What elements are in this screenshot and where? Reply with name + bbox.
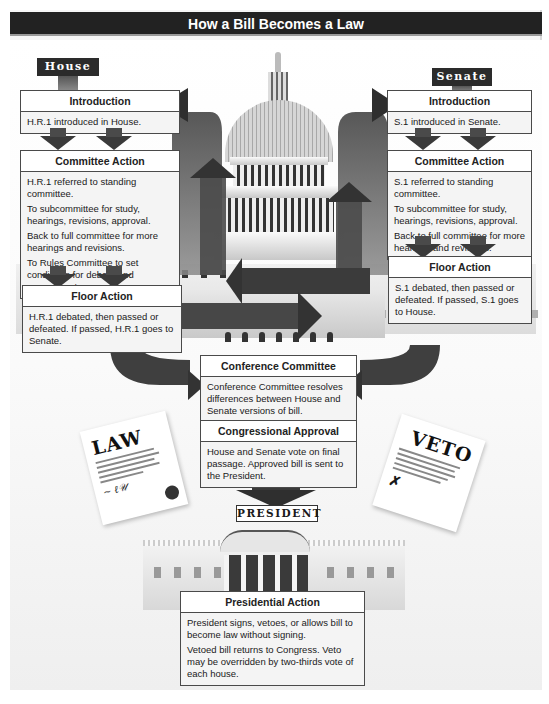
- senate-floor-text: S.1 debated, then passed or defeated. If…: [395, 282, 525, 318]
- senate-introduction-text: S.1 introduced in Senate.: [394, 116, 525, 128]
- senate-committee-heading: Committee Action: [388, 151, 531, 172]
- white-house-windows-left: [154, 567, 221, 578]
- senate-introduction-heading: Introduction: [388, 91, 531, 112]
- house-stem: [58, 76, 78, 90]
- house-introduction-box: Introduction H.R.1 introduced in House.: [20, 90, 180, 134]
- presidential-action-step: President signs, vetoes, or allows bill …: [187, 617, 358, 641]
- presidential-action-heading: Presidential Action: [181, 592, 364, 613]
- house-floor-action-box: Floor Action H.R.1 debated, then passed …: [22, 285, 182, 353]
- white-house-windows-right: [327, 567, 394, 578]
- white-house-portico-top: [220, 530, 310, 552]
- approval-heading: Congressional Approval: [201, 421, 356, 442]
- congressional-approval-box: Congressional Approval House and Senate …: [200, 420, 357, 488]
- house-committee-heading: Committee Action: [21, 151, 179, 172]
- house-introduction-heading: Introduction: [21, 91, 179, 112]
- house-label: House: [37, 58, 99, 76]
- house-to-senate-arrow: [298, 292, 322, 340]
- house-introduction-text: H.R.1 introduced in House.: [27, 116, 173, 128]
- presidential-action-step: Vetoed bill returns to Congress. Veto ma…: [187, 644, 358, 680]
- arrow-down-icon: [460, 136, 496, 150]
- senate-to-conference-arrow: [360, 345, 440, 385]
- approval-text: House and Senate vote on final passage. …: [207, 446, 350, 482]
- senate-floor-action-box: Floor Action S.1 debated, then passed or…: [388, 256, 532, 324]
- senate-committee-step: S.1 referred to standing committee.: [394, 176, 525, 200]
- senate-label: Senate: [432, 68, 492, 86]
- arrow-down-icon: [96, 136, 132, 150]
- seal-icon: [164, 484, 181, 501]
- arrow-down-icon: [40, 136, 76, 150]
- house-committee-step: To subcommittee for study, hearings, rev…: [27, 203, 173, 227]
- house-committee-step: Back to full committee for more hearings…: [27, 230, 173, 254]
- senate-floor-heading: Floor Action: [389, 257, 531, 278]
- white-house-portico-columns: [224, 555, 308, 595]
- conference-text: Conference Committee resolves difference…: [207, 381, 350, 417]
- house-floor-text: H.R.1 debated, then passed or defeated. …: [29, 311, 175, 347]
- conference-heading: Conference Committee: [201, 356, 356, 377]
- house-floor-heading: Floor Action: [23, 286, 181, 307]
- conference-committee-box: Conference Committee Conference Committe…: [200, 355, 357, 423]
- presidential-action-box: Presidential Action President signs, vet…: [180, 591, 365, 686]
- senate-to-house-arrow: [226, 258, 242, 304]
- senate-committee-step: To subcommittee for study, hearings, rev…: [394, 203, 525, 227]
- president-label: President: [236, 505, 318, 522]
- arrow-down-icon: [405, 136, 441, 150]
- house-committee-step: H.R.1 referred to standing committee.: [27, 176, 173, 200]
- senate-introduction-box: Introduction S.1 introduced in Senate.: [387, 90, 532, 134]
